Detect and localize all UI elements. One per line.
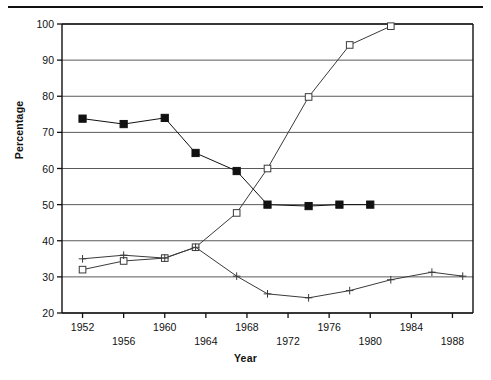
y-tick-label: 70: [42, 126, 54, 138]
y-tick-label: 80: [42, 90, 54, 102]
x-tick-label: 1980: [359, 335, 383, 347]
x-tick-label: 1952: [71, 321, 95, 333]
marker-filled-square: [264, 201, 271, 208]
marker-open-square: [388, 23, 395, 30]
chart-figure: Percentage Year 203040506070809010019521…: [0, 0, 491, 380]
y-tick-label: 50: [42, 199, 54, 211]
marker-open-square: [79, 266, 86, 273]
series-plus-series: [79, 243, 467, 301]
marker-open-square: [305, 94, 312, 101]
marker-filled-square: [305, 202, 312, 209]
y-tick-label: 20: [42, 307, 54, 319]
marker-filled-square: [336, 201, 343, 208]
marker-filled-square: [367, 201, 374, 208]
marker-open-square: [233, 210, 240, 217]
x-tick-label: 1976: [317, 321, 341, 333]
y-tick-label: 90: [42, 54, 54, 66]
marker-filled-square: [192, 149, 199, 156]
x-tick-label: 1988: [441, 335, 465, 347]
marker-filled-square: [233, 167, 240, 174]
series-line: [83, 118, 371, 206]
marker-filled-square: [79, 115, 86, 122]
x-tick-label: 1968: [235, 321, 259, 333]
marker-filled-square: [161, 114, 168, 121]
y-tick-label: 100: [36, 18, 54, 30]
marker-filled-square: [120, 120, 127, 127]
series-line: [83, 26, 391, 269]
y-tick-label: 30: [42, 271, 54, 283]
series-filled-square-series: [79, 114, 374, 209]
y-tick-label: 60: [42, 163, 54, 175]
x-ticks: 1952195619601964196819721976198019841988: [71, 313, 464, 347]
x-tick-label: 1956: [112, 335, 136, 347]
x-tick-label: 1964: [194, 335, 218, 347]
y-ticks: 2030405060708090100: [36, 18, 62, 319]
series-line: [83, 247, 463, 298]
marker-open-square: [346, 42, 353, 49]
marker-open-square: [264, 165, 271, 172]
y-tick-label: 40: [42, 235, 54, 247]
x-tick-label: 1972: [276, 335, 300, 347]
plot-canvas: 2030405060708090100195219561960196419681…: [0, 0, 491, 380]
x-tick-label: 1984: [400, 321, 424, 333]
x-tick-label: 1960: [153, 321, 177, 333]
